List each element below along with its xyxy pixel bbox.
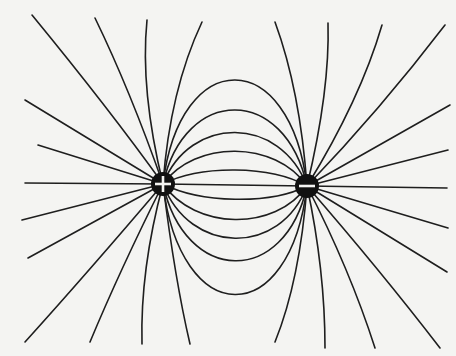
dipole-diagram xyxy=(0,0,456,356)
connecting-field-lines xyxy=(163,80,307,295)
field-lines-canvas xyxy=(0,0,456,356)
positive-charge xyxy=(151,172,175,196)
negative-charge xyxy=(295,174,319,198)
